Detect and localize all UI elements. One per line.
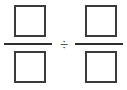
fraction-right-numerator-box[interactable] xyxy=(85,5,117,37)
fraction-right xyxy=(75,0,123,90)
fraction-left-bar xyxy=(4,43,52,45)
fraction-right-denominator-box[interactable] xyxy=(85,51,117,83)
fraction-division-expression: ÷ xyxy=(0,0,127,90)
fraction-left-denominator-box[interactable] xyxy=(14,51,46,83)
fraction-left xyxy=(4,0,52,90)
fraction-right-bar xyxy=(75,43,123,45)
fraction-left-numerator-box[interactable] xyxy=(14,5,46,37)
division-sign-icon: ÷ xyxy=(57,36,71,54)
